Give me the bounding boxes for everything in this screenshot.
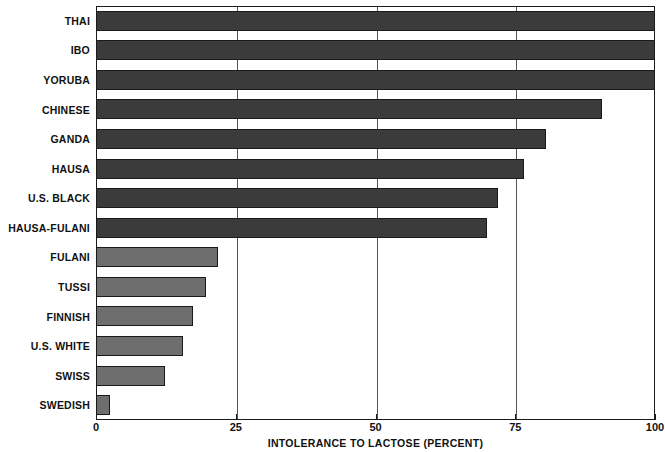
x-axis-title: INTOLERANCE TO LACTOSE (PERCENT) (96, 437, 655, 449)
bar-u-s-white (96, 336, 183, 356)
x-axis: INTOLERANCE TO LACTOSE (PERCENT) 0255075… (96, 420, 655, 452)
category-label: U.S. WHITE (0, 340, 90, 352)
category-label: HAUSA-FULANI (0, 222, 90, 234)
category-label: TUSSI (0, 281, 90, 293)
bar-swiss (96, 366, 165, 386)
category-label: HAUSA (0, 163, 90, 175)
bar-row (96, 95, 655, 125)
bar-row (96, 331, 655, 361)
category-label: THAI (0, 15, 90, 27)
bar-thai (96, 11, 655, 31)
bar-row (96, 361, 655, 391)
x-tick-mark-0 (96, 414, 97, 420)
bar-swedish (96, 395, 110, 415)
bars-layer (96, 6, 655, 420)
bar-row (96, 6, 655, 36)
x-tick-label-0: 0 (93, 421, 99, 433)
bar-tussi (96, 277, 206, 297)
x-tick-label-50: 50 (369, 421, 381, 433)
x-tick-label-75: 75 (509, 421, 521, 433)
bar-row (96, 36, 655, 66)
bar-row (96, 124, 655, 154)
category-label: SWISS (0, 370, 90, 382)
x-tick-mark-25 (236, 414, 237, 420)
category-label: IBO (0, 44, 90, 56)
x-tick-mark-50 (376, 414, 377, 420)
category-label: YORUBA (0, 74, 90, 86)
bar-finnish (96, 306, 193, 326)
category-label: FULANI (0, 251, 90, 263)
bar-fulani (96, 247, 218, 267)
bar-u-s-black (96, 188, 498, 208)
bar-hausa (96, 159, 524, 179)
bar-row (96, 213, 655, 243)
category-label: FINNISH (0, 311, 90, 323)
bar-row (96, 154, 655, 184)
bar-row (96, 243, 655, 273)
x-tick-mark-100 (655, 414, 656, 420)
category-label: GANDA (0, 133, 90, 145)
x-tick-mark-75 (515, 414, 516, 420)
bar-row (96, 302, 655, 332)
bar-yoruba (96, 70, 655, 90)
bar-chinese (96, 99, 602, 119)
bar-ganda (96, 129, 546, 149)
category-label: U.S. BLACK (0, 192, 90, 204)
category-label: SWEDISH (0, 399, 90, 411)
bar-ibo (96, 40, 655, 60)
x-tick-label-100: 100 (646, 421, 664, 433)
category-labels-axis: THAIIBOYORUBACHINESEGANDAHAUSAU.S. BLACK… (0, 6, 90, 420)
lactose-intolerance-bar-chart: THAIIBOYORUBACHINESEGANDAHAUSAU.S. BLACK… (0, 0, 665, 452)
category-label: CHINESE (0, 104, 90, 116)
bar-row (96, 183, 655, 213)
bar-hausa-fulani (96, 218, 487, 238)
x-tick-label-25: 25 (230, 421, 242, 433)
bar-row (96, 272, 655, 302)
bar-row (96, 65, 655, 95)
